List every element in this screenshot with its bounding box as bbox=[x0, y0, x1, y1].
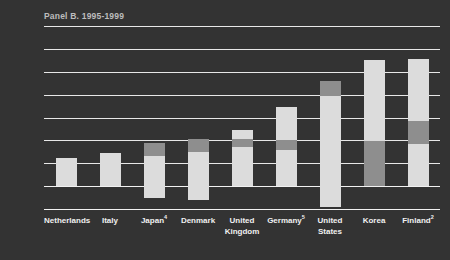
bar-segment-grey bbox=[144, 143, 165, 157]
bar-united-kingdom[interactable] bbox=[232, 26, 253, 209]
footnote-marker: 5 bbox=[302, 214, 305, 220]
gridline--0-5 bbox=[44, 209, 440, 210]
bar-segment-light bbox=[320, 96, 341, 207]
plot-area: 3.53.02.52.01.51.00.50.0-0.5 bbox=[44, 26, 440, 209]
bar-segment-light bbox=[188, 152, 209, 200]
bar-netherlands[interactable] bbox=[56, 26, 77, 209]
bar-denmark[interactable] bbox=[188, 26, 209, 209]
bar-segment-light bbox=[408, 144, 429, 186]
bar-segment-light bbox=[276, 107, 297, 140]
bar-segment-grey bbox=[188, 139, 209, 152]
bar-united-states[interactable] bbox=[320, 26, 341, 209]
bar-segment-light bbox=[232, 130, 253, 139]
bar-segment-grey bbox=[232, 139, 253, 146]
category-label-united-kingdom: United Kingdom bbox=[220, 216, 264, 237]
bar-segment-light bbox=[232, 147, 253, 186]
category-label-finland: Finland2 bbox=[396, 216, 440, 227]
footnote-marker: 2 bbox=[431, 214, 434, 220]
bar-segment-grey bbox=[408, 121, 429, 144]
bar-segment-light bbox=[276, 150, 297, 187]
bar-segment-light bbox=[364, 60, 385, 141]
bar-segment-grey bbox=[364, 141, 385, 186]
bar-segment-grey bbox=[276, 140, 297, 149]
category-label-korea: Korea bbox=[352, 216, 396, 227]
panel-title: Panel B. 1995-1999 bbox=[44, 11, 124, 21]
chart-panel: Panel B. 1995-1999 3.53.02.52.01.51.00.5… bbox=[0, 0, 450, 260]
bar-italy[interactable] bbox=[100, 26, 121, 209]
category-label-japan: Japan4 bbox=[132, 216, 176, 227]
bar-segment-light bbox=[408, 59, 429, 121]
bar-segment-light bbox=[144, 156, 165, 198]
bar-japan[interactable] bbox=[144, 26, 165, 209]
bar-finland[interactable] bbox=[408, 26, 429, 209]
footnote-marker: 4 bbox=[164, 214, 167, 220]
bar-germany[interactable] bbox=[276, 26, 297, 209]
category-label-italy: Italy bbox=[88, 216, 132, 227]
category-label-united-states: United States bbox=[308, 216, 352, 237]
category-label-netherlands: Netherlands bbox=[44, 216, 88, 227]
bar-segment-light bbox=[100, 153, 121, 186]
bar-korea[interactable] bbox=[364, 26, 385, 209]
category-label-germany: Germany5 bbox=[264, 216, 308, 227]
bar-segment-grey bbox=[320, 81, 341, 96]
bar-segment-light bbox=[56, 158, 77, 186]
category-label-denmark: Denmark bbox=[176, 216, 220, 227]
